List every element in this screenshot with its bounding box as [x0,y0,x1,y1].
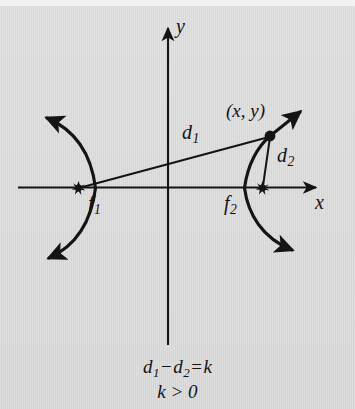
right-branch-lower-arm [245,188,293,250]
d1-label: d1 [182,122,199,145]
focus-2-label-base: f [224,192,230,214]
d2-label-subscript: 2 [287,154,294,169]
focus-1-label-subscript: 1 [94,202,101,217]
d2-segment [263,137,270,186]
d1-label-subscript: 1 [192,131,199,146]
caption-minus-operator: − [160,356,174,377]
caption-equation: d1−d2=k [0,357,355,380]
focus-2-label-subscript: 2 [230,202,237,217]
d1-label-base: d [182,121,192,143]
y-axis-label: y [176,16,185,36]
caption-k: k [203,356,211,377]
caption-d2-subscript: 2 [183,365,190,380]
right-branch-asymptote-ray [270,112,300,136]
hyperbola-diagram-svg [0,0,355,409]
x-axis-label: x [315,192,324,212]
caption-equals-operator: = [190,356,204,377]
d2-label: d2 [277,145,294,168]
d2-label-base: d [277,144,287,166]
d1-segment [79,137,269,188]
caption-d1: d [143,356,153,377]
focus-2-label: f2 [224,193,237,216]
caption-condition: k > 0 [0,382,355,401]
point-xy-label: (x, y) [226,101,265,120]
caption-d2: d [173,356,183,377]
focus-1-label-base: f [88,192,94,214]
focus-1-label: f1 [88,193,101,216]
figure-container: y x f1 f2 d1 d2 (x, y) d1−d2=k k > 0 [0,0,355,409]
caption-d1-subscript: 1 [153,365,160,380]
left-branch-upper-arm [47,118,96,188]
point-xy-dot [265,131,276,142]
